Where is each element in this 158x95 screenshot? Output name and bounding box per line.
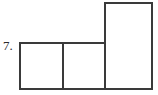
composite-rectangle-figure [0, 0, 158, 95]
figure-canvas: 7. [0, 0, 158, 95]
figure-fill-group [20, 3, 152, 89]
figure-outline-fill [20, 3, 152, 89]
